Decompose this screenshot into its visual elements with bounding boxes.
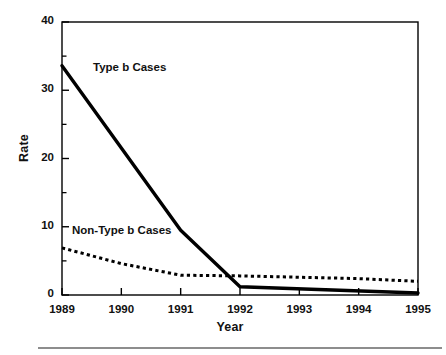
x-tick-label: 1995 (395, 303, 441, 315)
line-chart (0, 0, 446, 355)
x-tick-label: 1992 (217, 303, 263, 315)
x-tick-label: 1990 (98, 303, 144, 315)
y-axis-title: Rate (17, 118, 31, 178)
footer-divider (38, 347, 442, 349)
x-axis-title: Year (180, 320, 280, 334)
y-tick-label: 20 (24, 151, 54, 163)
series-annotation-1: Non-Type b Cases (72, 224, 171, 236)
y-tick-label: 10 (24, 219, 54, 231)
y-tick-label: 0 (24, 287, 54, 299)
series-annotation-0: Type b Cases (93, 61, 166, 73)
y-tick-label: 40 (24, 14, 54, 26)
series-line-1 (62, 248, 418, 281)
x-tick-label: 1989 (39, 303, 85, 315)
x-tick-label: 1993 (276, 303, 322, 315)
figure-container: Rate Year 010203040198919901991199219931… (0, 0, 446, 355)
x-tick-label: 1994 (336, 303, 382, 315)
y-tick-label: 30 (24, 82, 54, 94)
series-line-0 (62, 66, 418, 293)
data-series-layer (62, 66, 418, 293)
y-axis-ticks (62, 22, 69, 295)
x-tick-label: 1991 (158, 303, 204, 315)
